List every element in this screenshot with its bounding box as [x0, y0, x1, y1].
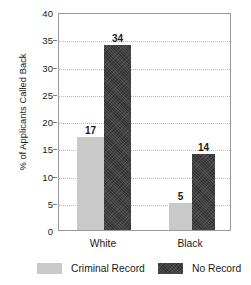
gridline-20 [59, 123, 230, 124]
y-tick-label-25: 25 [3, 89, 53, 100]
y-tick-mark-5 [53, 204, 57, 205]
legend-item-criminal-record: Criminal Record [37, 263, 145, 274]
bar-value-white-no-record: 34 [112, 33, 123, 44]
legend-swatch-no-record-icon [158, 263, 183, 274]
gridline-25 [59, 96, 230, 97]
bar-black-no-record [192, 154, 215, 230]
y-tick-label-10: 10 [3, 171, 53, 182]
chart-legend: Criminal Record No Record [0, 263, 251, 279]
y-tick-mark-30 [53, 68, 57, 69]
bar-value-black-no-record: 14 [198, 142, 209, 153]
y-tick-label-0: 0 [3, 226, 53, 237]
bar-white-criminal-record [77, 137, 104, 230]
bar-black-criminal-record [169, 203, 192, 230]
y-tick-label-5: 5 [3, 198, 53, 209]
y-tick-label-15: 15 [3, 144, 53, 155]
gridline-30 [59, 69, 230, 70]
bar-value-white-criminal-record: 17 [85, 125, 96, 136]
y-axis-tick-labels: 40 35 30 25 20 15 10 5 0 [0, 13, 53, 231]
y-tick-mark-25 [53, 95, 57, 96]
y-tick-label-30: 30 [3, 62, 53, 73]
legend-label-no-record: No Record [192, 263, 241, 274]
y-tick-mark-10 [53, 177, 57, 178]
y-tick-mark-15 [53, 149, 57, 150]
bar-value-black-criminal-record: 5 [178, 191, 184, 202]
y-tick-mark-20 [53, 122, 57, 123]
y-tick-label-20: 20 [3, 117, 53, 128]
y-tick-label-40: 40 [3, 8, 53, 19]
gridline-35 [59, 41, 230, 42]
bar-white-no-record [104, 45, 131, 230]
legend-item-no-record: No Record [158, 263, 241, 274]
legend-label-criminal-record: Criminal Record [71, 263, 145, 274]
y-tick-label-35: 35 [3, 35, 53, 46]
bar-chart: % of Applicants Called Back 40 35 30 25 … [0, 0, 251, 285]
x-category-label-white: White [90, 238, 116, 249]
plot-area: 17 34 5 14 [58, 13, 231, 231]
x-category-label-black: Black [177, 238, 202, 249]
y-tick-mark-35 [53, 40, 57, 41]
legend-swatch-criminal-record-icon [37, 263, 62, 274]
